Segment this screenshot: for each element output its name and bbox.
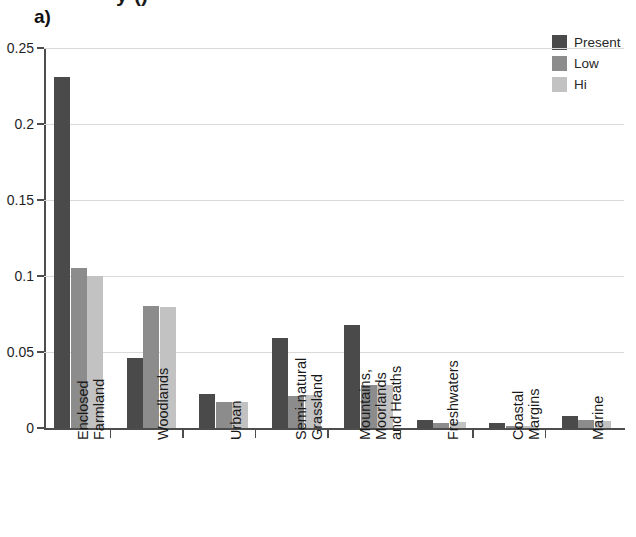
bar-present[interactable] [272, 338, 288, 428]
y-tick-mark [37, 351, 44, 353]
bar-group [562, 48, 611, 428]
chart-figure: y () a) PresentLowHi 00.050.10.150.20.25… [0, 0, 636, 537]
x-category-label-line: Marine [591, 396, 607, 440]
x-axis-separator-tick [472, 429, 474, 438]
bar-present[interactable] [199, 394, 215, 428]
x-category-label-line: Coastal [511, 388, 527, 440]
figure-title-clipped: y () [0, 0, 636, 14]
x-category-label-line: Woodlands [156, 368, 172, 440]
x-category-label-line: Urban [229, 401, 245, 441]
y-tick-label: 0.25 [7, 40, 34, 56]
x-category-label-line: Semi-natural [294, 358, 310, 440]
x-category-label-line: Grassland [309, 358, 325, 440]
bar-group [199, 48, 248, 428]
y-tick-mark [37, 427, 44, 429]
bar-group [489, 48, 538, 428]
x-category-label-line: Freshwaters [446, 360, 462, 440]
x-category-label-line: and Heaths [389, 366, 405, 440]
x-category-label-line: Mountains, [358, 366, 374, 440]
bar-group [54, 48, 103, 428]
y-tick-mark [37, 47, 44, 49]
y-axis-labels: 00.050.10.150.20.25 [0, 0, 34, 537]
y-tick-mark [37, 275, 44, 277]
x-category-label-line: Moorlands [374, 366, 390, 440]
x-axis-separator-tick [545, 429, 547, 438]
x-category-label-line: Farmland [92, 379, 108, 440]
x-axis-separator-tick [255, 429, 257, 438]
y-tick-mark [37, 199, 44, 201]
panel-label: a) [34, 6, 51, 28]
bar-present[interactable] [562, 416, 578, 428]
y-tick-label: 0 [26, 420, 34, 436]
y-tick-mark [37, 123, 44, 125]
x-axis-separator-tick [182, 429, 184, 438]
x-category-label-line: Margins [527, 388, 543, 440]
bar-present[interactable] [417, 420, 433, 428]
x-category-label-line: Enclosed [76, 379, 92, 440]
x-axis-separator-tick [400, 429, 402, 438]
plot-area [44, 48, 624, 428]
x-axis-separator-tick [327, 429, 329, 438]
bar-present[interactable] [489, 423, 505, 428]
x-axis-separator-tick [110, 429, 112, 438]
y-tick-label: 0.1 [15, 268, 34, 284]
y-tick-label: 0.15 [7, 192, 34, 208]
bar-present[interactable] [54, 77, 70, 428]
y-tick-label: 0.05 [7, 344, 34, 360]
figure-title-text: y () [116, 0, 148, 7]
bar-present[interactable] [127, 358, 143, 428]
y-tick-label: 0.2 [15, 116, 34, 132]
